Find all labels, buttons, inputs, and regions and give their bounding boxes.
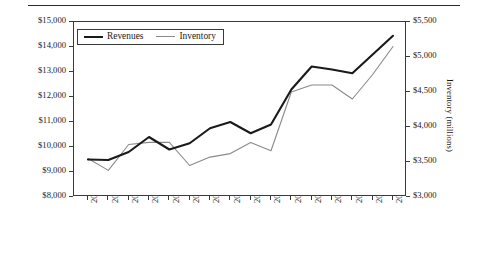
left-tick-label: $11,000 [0,116,66,125]
left-tick-label: $12,000 [0,91,66,100]
right-tick-label: $4,500 [413,86,437,95]
right-tick-label: $5,500 [413,16,437,25]
chart-legend: Revenues Inventory [77,29,224,45]
right-tick-label: $5,000 [413,51,437,60]
series-lines [74,22,407,197]
left-tick-label: $8,000 [0,191,66,200]
chart-figure: Revenues (millions) Inventory (millions)… [0,0,477,261]
left-tick-label: $13,000 [0,66,66,75]
legend-item-revenues: Revenues [84,32,143,41]
legend-label-revenues: Revenues [107,32,143,41]
right-tick-label: $3,500 [413,156,437,165]
plot-area [73,21,406,196]
legend-item-inventory: Inventory [156,32,215,41]
right-axis-title: Inventory (millions) [445,79,455,152]
right-tick-label: $4,000 [413,121,437,130]
line-series-inventory [88,47,393,171]
left-tick-label: $14,000 [0,41,66,50]
legend-swatch-inventory [156,36,175,37]
legend-label-inventory: Inventory [179,32,215,41]
left-tick-label: $15,000 [0,16,66,25]
left-tick-label: $9,000 [0,166,66,175]
legend-swatch-revenues [84,36,103,38]
right-tick-label: $3,000 [413,191,437,200]
line-series-revenues [88,36,393,160]
left-tick-label: $10,000 [0,141,66,150]
left-tick-mark [69,196,73,197]
top-divider-rule [28,5,460,6]
